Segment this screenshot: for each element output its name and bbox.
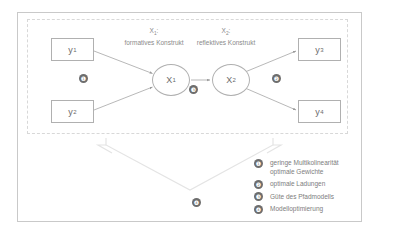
construct-symbol-line-x2: X2: [176, 26, 276, 38]
diagram-canvas: y1 y2 y3 y4 X1 X2 X1: formatives Konstru… [0, 0, 395, 233]
indicator-box-y4: y4 [298, 100, 341, 123]
latent-subscript-x1: 1 [173, 77, 176, 83]
indicator-subscript-y2: 2 [73, 109, 77, 115]
latent-label-x2: X [226, 75, 232, 85]
legend-text-3: Güte des Pfadmodells [270, 192, 334, 201]
indicator-label-y3: y [315, 45, 320, 55]
construct-caption-x2: X2: reflektives Konstrukt [176, 26, 276, 47]
construct-caption-text-x2: reflektives Konstrukt [176, 38, 276, 47]
marker-badge-2: ❷ [272, 74, 281, 83]
legend-badge-1: ❶ [254, 159, 263, 168]
latent-circle-x2: X2 [212, 64, 250, 96]
legend: ❶ geringe Multikolinearität optimale Gew… [254, 158, 358, 217]
latent-label-x1: X [166, 75, 172, 85]
marker-badge-4: ❹ [192, 198, 201, 207]
construct-subscript-x1: 1 [154, 31, 157, 36]
legend-text-1: geringe Multikolinearität optimale Gewic… [270, 158, 339, 176]
latent-circle-x1: X1 [152, 64, 190, 96]
indicator-label-y4: y [315, 107, 320, 117]
marker-badge-3: ❸ [189, 85, 198, 94]
indicator-subscript-y4: 4 [320, 109, 324, 115]
latent-subscript-x2: 2 [233, 77, 236, 83]
legend-item-4: ❹ Modelloptimierung [254, 204, 358, 214]
indicator-subscript-y1: 1 [73, 47, 77, 53]
legend-badge-2: ❷ [254, 180, 263, 189]
legend-badge-4: ❹ [254, 205, 263, 214]
marker-badge-1: ❶ [79, 74, 88, 83]
indicator-subscript-y3: 3 [320, 47, 324, 53]
construct-subscript-x2: 2 [226, 31, 229, 36]
indicator-label-y1: y [68, 45, 73, 55]
legend-badge-3: ❸ [254, 192, 263, 201]
legend-item-1: ❶ geringe Multikolinearität optimale Gew… [254, 158, 358, 176]
indicator-box-y1: y1 [51, 38, 94, 61]
indicator-label-y2: y [68, 107, 73, 117]
legend-text-2: optimale Ladungen [270, 179, 325, 188]
indicator-box-y3: y3 [298, 38, 341, 61]
legend-text-4: Modelloptimierung [270, 204, 323, 213]
legend-item-2: ❷ optimale Ladungen [254, 179, 358, 189]
legend-item-3: ❸ Güte des Pfadmodells [254, 192, 358, 202]
indicator-box-y2: y2 [51, 100, 94, 123]
